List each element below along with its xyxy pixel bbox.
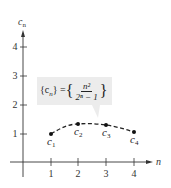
sequence-formula: {cn} = { n² 2ⁿ − 1 } [40,78,108,104]
point-label: c1 [47,135,56,149]
y-axis-label: cn [18,16,26,29]
point-label: c4 [130,133,139,147]
y-ticks [20,47,27,134]
callout-pointer [92,105,100,118]
formula-fraction: n² 2ⁿ − 1 [75,81,97,102]
dashed-connector [51,124,134,134]
x-tick-label: 2 [76,168,81,179]
x-tick-label: 4 [132,168,137,179]
left-brace: { [66,83,74,99]
numerator: n² [81,81,92,92]
x-axis-label: n [156,156,161,167]
x-axis-arrow-icon [146,160,153,164]
point-label: c2 [74,125,83,139]
x-tick-label: 3 [104,168,109,179]
y-axis-arrow-icon [21,30,25,37]
x-tick-label: 1 [49,168,54,179]
y-tick-label: 3 [13,70,18,81]
denominator: 2ⁿ − 1 [75,92,97,102]
y-tick-label: 1 [13,128,18,139]
point-label: c3 [102,126,111,140]
y-tick-label: 2 [13,99,18,110]
formula-lhs: {cn} = [40,84,66,98]
y-tick-label: 4 [13,41,18,52]
right-brace: } [100,83,108,99]
